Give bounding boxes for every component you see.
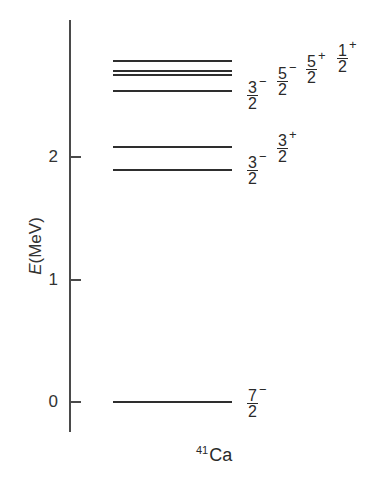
jp-den: 2 [338, 59, 347, 74]
jp-parity: + [289, 129, 297, 141]
jp-label-2.68: 52− [277, 66, 297, 97]
jp-num: 5 [306, 54, 317, 70]
jp-num: 7 [247, 388, 258, 404]
level-2.68 [113, 74, 232, 76]
jp-label-1.89: 32− [247, 155, 267, 186]
jp-parity: − [259, 151, 267, 163]
jp-label-2.08: 32+ [277, 133, 297, 164]
tick-1 [70, 279, 81, 281]
tick-label-0: 0 [38, 393, 58, 410]
jp-label-2.79: 12+ [337, 43, 357, 74]
jp-label-2.54: 32− [247, 80, 267, 111]
tick-label-2: 2 [38, 148, 58, 165]
jp-parity: + [349, 39, 357, 51]
level-2.71 [113, 70, 232, 72]
y-axis-symbol: E [26, 263, 45, 274]
jp-num: 5 [277, 66, 288, 82]
jp-parity: − [259, 76, 267, 88]
jp-label-ground: 72− [247, 388, 267, 419]
jp-parity: − [259, 384, 267, 396]
jp-den: 2 [248, 171, 257, 186]
level-2.79 [113, 60, 232, 62]
mass-number: 41 [196, 444, 208, 456]
tick-0 [70, 401, 81, 403]
jp-den: 2 [248, 404, 257, 419]
jp-num: 3 [247, 80, 258, 96]
element-symbol: Ca [209, 445, 232, 465]
y-axis-label: E(MeV) [26, 206, 46, 286]
level-ground [113, 401, 232, 403]
jp-num: 1 [337, 43, 348, 59]
level-2.54 [113, 90, 232, 92]
jp-parity: + [318, 50, 326, 62]
jp-num: 3 [277, 133, 288, 149]
jp-label-2.71: 52+ [306, 54, 326, 85]
nucleus-label: 41Ca [196, 444, 232, 466]
level-2.08 [113, 146, 232, 148]
jp-den: 2 [307, 70, 316, 85]
jp-parity: − [289, 62, 297, 74]
jp-den: 2 [248, 96, 257, 111]
y-axis-unit: (MeV) [26, 217, 45, 263]
jp-den: 2 [278, 149, 287, 164]
level-1.89 [113, 169, 232, 171]
jp-num: 3 [247, 155, 258, 171]
tick-2 [70, 156, 81, 158]
energy-axis [69, 20, 71, 432]
jp-den: 2 [278, 82, 287, 97]
